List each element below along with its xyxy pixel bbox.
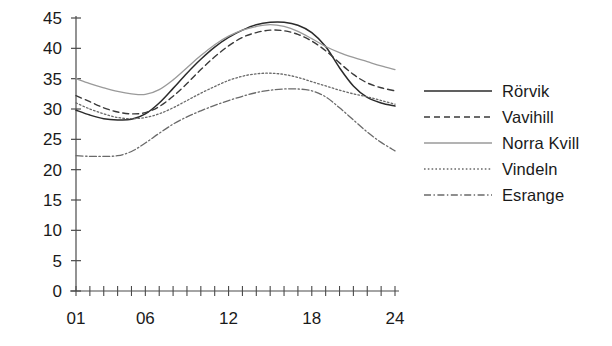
legend-line-sample-rorvik [424,85,492,97]
y-axis-tick-label: 45 [43,9,62,28]
legend-item-rorvik: Rörvik [424,78,612,104]
y-axis-tick-label: 25 [43,130,62,149]
legend-item-esrange: Esrange [424,182,612,208]
y-axis-tick-label: 15 [43,191,62,210]
y-axis-tick-label: 30 [43,100,62,119]
y-axis-tick-label: 35 [43,70,62,89]
legend-line-sample-norra-kvill [424,137,492,149]
series-line-norra-kvill [76,25,395,95]
legend-label-norra-kvill: Norra Kvill [502,134,579,153]
legend-label-rorvik: Rörvik [502,82,549,101]
legend-line-sample-vindeln [424,163,492,175]
legend-label-vindeln: Vindeln [502,160,557,179]
legend-label-vavihill: Vavihill [502,108,554,127]
x-axis-tick-label: 01 [67,309,86,328]
y-axis-tick-label: 20 [43,161,62,180]
line-chart-plot-area: 0510152025303540450106121824 [0,0,420,346]
legend-label-esrange: Esrange [502,186,564,205]
series-line-r-rvik [76,22,395,120]
x-axis-tick-label: 06 [136,309,155,328]
legend-item-vindeln: Vindeln [424,156,612,182]
series-line-vavihill [76,30,395,114]
legend-item-vavihill: Vavihill [424,104,612,130]
legend-item-norra-kvill: Norra Kvill [424,130,612,156]
x-axis-tick-label: 12 [219,309,238,328]
x-axis-tick-label: 18 [302,309,321,328]
x-axis-tick-label: 24 [386,309,405,328]
chart-screenshot: 0510152025303540450106121824 Rörvik Vavi… [0,0,612,346]
legend-line-sample-esrange [424,189,492,201]
chart-legend: Rörvik Vavihill Norra Kvill Vindeln Esra… [424,78,612,218]
y-axis-tick-label: 10 [43,221,62,240]
y-axis-tick-label: 5 [53,252,62,271]
y-axis-tick-label: 40 [43,39,62,58]
legend-line-sample-vavihill [424,111,492,123]
series-line-vindeln [76,73,395,119]
y-axis-tick-label: 0 [53,282,62,301]
series-line-esrange [76,89,395,157]
chart-svg: 0510152025303540450106121824 [0,0,420,346]
